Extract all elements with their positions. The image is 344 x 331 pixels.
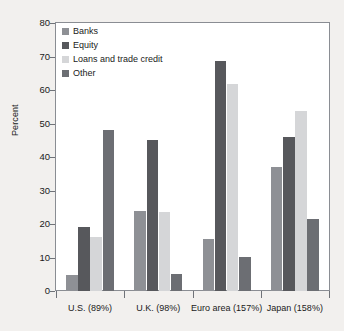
- x-axis-tick-mark: [329, 291, 330, 298]
- legend-item: Equity: [62, 39, 163, 51]
- y-axis-tick-mark: [50, 157, 55, 158]
- legend-item: Loans and trade credit: [62, 53, 163, 65]
- y-axis-tick-mark: [50, 258, 55, 259]
- y-axis-tick-label: 30: [26, 186, 50, 196]
- y-axis-tick-mark: [50, 191, 55, 192]
- x-axis-tick-mark: [261, 291, 262, 298]
- bar: [90, 237, 102, 291]
- y-axis-title: Percent: [10, 56, 20, 136]
- y-axis-tick-label: 60: [26, 85, 50, 95]
- y-axis-tick-mark: [50, 291, 55, 292]
- x-axis-tick-mark: [193, 291, 194, 298]
- legend-label: Banks: [73, 26, 98, 36]
- legend-label: Loans and trade credit: [73, 54, 163, 64]
- bar: [159, 212, 171, 291]
- legend-swatch-icon: [62, 28, 69, 35]
- x-axis-tick-mark: [124, 291, 125, 298]
- y-axis-tick-label: 20: [26, 219, 50, 229]
- bar: [103, 130, 115, 291]
- legend-item: Banks: [62, 25, 163, 37]
- legend-swatch-icon: [62, 70, 69, 77]
- bar: [239, 257, 251, 291]
- y-axis-tick-label: 40: [26, 152, 50, 162]
- bar: [78, 227, 90, 291]
- x-axis-group-label: Japan (158%): [253, 303, 337, 314]
- y-axis-tick-label: 70: [26, 52, 50, 62]
- y-axis-tick-mark: [50, 23, 55, 24]
- y-axis-tick-mark: [50, 90, 55, 91]
- legend-swatch-icon: [62, 42, 69, 49]
- y-axis-tick-mark: [50, 124, 55, 125]
- bar: [171, 274, 183, 291]
- legend-swatch-icon: [62, 56, 69, 63]
- y-axis-tick-mark: [50, 57, 55, 58]
- y-axis-tick-mark: [50, 224, 55, 225]
- y-axis-tick-labels: 80706050403020100: [24, 0, 50, 331]
- bar: [295, 111, 307, 291]
- bar: [227, 84, 239, 291]
- y-axis-tick-label: 80: [26, 18, 50, 28]
- chart-legend: BanksEquityLoans and trade creditOther: [62, 25, 163, 79]
- bar: [215, 61, 227, 291]
- x-axis-tick-mark: [56, 291, 57, 298]
- y-axis-tick-label: 0: [26, 286, 50, 296]
- legend-item: Other: [62, 67, 163, 79]
- bar: [147, 140, 159, 291]
- y-axis-tick-label: 10: [26, 253, 50, 263]
- y-axis-tick-label: 50: [26, 119, 50, 129]
- bar: [271, 167, 283, 291]
- legend-label: Other: [73, 68, 96, 78]
- bar: [203, 239, 215, 291]
- bar: [66, 275, 78, 291]
- bar: [134, 211, 146, 291]
- legend-label: Equity: [73, 40, 98, 50]
- bar: [307, 219, 319, 291]
- bar-chart-figure: Percent 80706050403020100 U.S. (89%)U.K.…: [0, 0, 344, 331]
- bar: [283, 137, 295, 291]
